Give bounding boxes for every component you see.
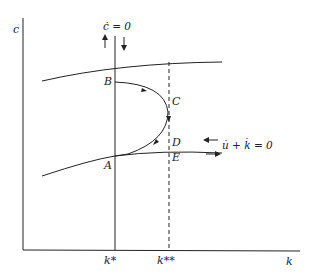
trajectory-arrow-icon — [141, 88, 147, 92]
tick-k-star: k* — [104, 255, 116, 266]
point-e-label: E — [172, 152, 180, 163]
point-c-label: C — [172, 96, 180, 107]
y-axis-label: c — [13, 24, 19, 35]
u-plus-k-zero-locus — [42, 152, 222, 176]
point-d-label: D — [172, 137, 181, 148]
upper-curve — [42, 62, 222, 81]
point-b-label: B — [104, 76, 112, 87]
u-plus-k-zero-label: u̇ + k̇ = 0 — [222, 140, 273, 151]
x-axis — [23, 250, 300, 251]
phase-diagram — [0, 0, 316, 275]
tick-k-double-star: k** — [157, 255, 175, 266]
c-dot-zero-label: ċ = 0 — [103, 21, 131, 32]
trajectory-path — [115, 82, 168, 156]
x-axis-label: k — [286, 256, 293, 267]
point-a-label: A — [104, 160, 112, 171]
